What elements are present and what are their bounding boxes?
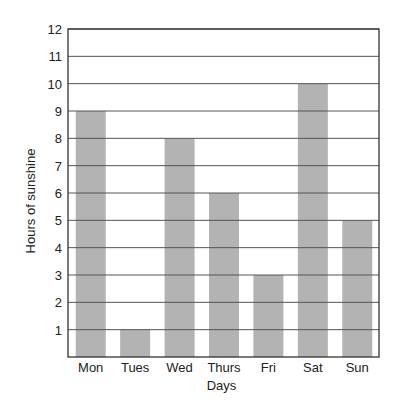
x-tick-labels: MonTuesWedThursFriSatSun — [78, 360, 369, 375]
y-tick-label: 2 — [55, 295, 62, 310]
x-tick-label: Sat — [303, 360, 323, 375]
x-tick-label: Tues — [121, 360, 150, 375]
x-axis-label: Days — [207, 378, 237, 393]
y-tick-label: 1 — [55, 323, 62, 338]
y-axis-label: Hours of sunshine — [23, 149, 38, 254]
bar-sun — [342, 220, 372, 357]
y-tick-labels: 123456789101112 — [48, 22, 62, 338]
x-tick-label: Thurs — [207, 360, 241, 375]
x-tick-label: Sun — [346, 360, 369, 375]
y-tick-label: 11 — [49, 49, 63, 64]
x-tick-label: Wed — [166, 360, 193, 375]
x-tick-label: Fri — [261, 360, 276, 375]
y-tick-label: 12 — [48, 22, 62, 37]
x-tick-label: Mon — [78, 360, 103, 375]
y-tick-label: 10 — [48, 77, 62, 92]
y-tick-label: 7 — [55, 159, 62, 174]
y-tick-label: 5 — [55, 213, 62, 228]
bar-mon — [76, 111, 106, 357]
bar-tues — [120, 330, 150, 357]
y-tick-label: 6 — [55, 186, 62, 201]
bar-chart: 123456789101112 MonTuesWedThursFriSatSun… — [0, 0, 398, 412]
bar-fri — [253, 275, 283, 357]
y-tick-label: 3 — [55, 268, 62, 283]
y-tick-label: 8 — [55, 131, 62, 146]
y-tick-label: 9 — [55, 104, 62, 119]
y-tick-label: 4 — [55, 241, 62, 256]
